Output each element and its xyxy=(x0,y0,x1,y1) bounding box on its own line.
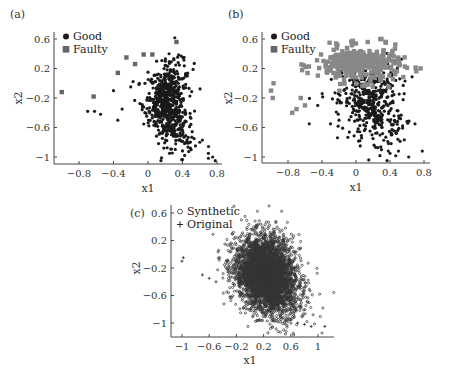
legend-item-faulty: Faulty xyxy=(63,43,109,56)
panel-a: −0.8−0.400.40.80.60.2−0.2−0.6−1(a)x1x2Go… xyxy=(10,8,225,195)
y-tick-label: −0.2 xyxy=(143,263,167,274)
x-tick-label: 0.8 xyxy=(209,168,225,179)
x-tick-label: −0.4 xyxy=(310,167,334,178)
open-circle-marker-icon xyxy=(178,209,183,214)
y-tick-label: −0.2 xyxy=(234,93,258,104)
x-tick-label: −0.8 xyxy=(276,167,300,178)
panel-label: (c) xyxy=(130,207,145,220)
circle-marker-icon xyxy=(271,34,277,40)
y-tick-label: −0.6 xyxy=(143,290,167,301)
x-axis-label: x1 xyxy=(141,182,154,195)
x-axis-label: x1 xyxy=(243,354,256,367)
legend-item-faulty: Faulty xyxy=(271,43,317,56)
y-tick-label: −1 xyxy=(243,152,258,163)
legend-item-synthetic: Synthetic xyxy=(178,205,240,218)
legend: GoodFaulty xyxy=(63,30,109,56)
legend-label: Good xyxy=(281,30,310,43)
panel-b: −0.8−0.400.40.80.60.2−0.2−0.6−1(b)x1x2Go… xyxy=(222,8,432,194)
legend-label: Good xyxy=(73,30,102,43)
y-tick-label: 0.6 xyxy=(242,34,258,45)
x-tick-label: −0.2 xyxy=(224,341,248,352)
x-tick-label: 0.8 xyxy=(416,167,432,178)
x-tick-label: −0.6 xyxy=(197,341,221,352)
y-tick-label: −1 xyxy=(152,318,167,329)
legend-item-original: Original xyxy=(177,218,233,231)
legend: GoodFaulty xyxy=(271,30,317,56)
y-tick-label: −1 xyxy=(35,152,50,163)
square-marker-icon xyxy=(63,46,70,53)
legend-label: Synthetic xyxy=(187,205,240,218)
legend-label: Faulty xyxy=(281,43,316,56)
x-tick-label: 0.6 xyxy=(283,341,299,352)
x-tick-label: 0 xyxy=(353,167,359,178)
figure: −0.8−0.400.40.80.60.2−0.2−0.6−1(a)x1x2Go… xyxy=(0,0,449,378)
y-tick-label: −0.2 xyxy=(26,93,50,104)
y-axis-label: x2 xyxy=(12,91,25,104)
y-tick-label: 0.6 xyxy=(34,34,50,45)
square-marker-icon xyxy=(271,46,278,53)
legend-label: Original xyxy=(187,218,233,231)
y-tick-label: 0.6 xyxy=(151,208,167,219)
y-tick-label: 0.2 xyxy=(151,235,167,246)
x-tick-label: −1 xyxy=(175,341,190,352)
y-tick-label: −0.6 xyxy=(234,122,258,133)
y-tick-label: −0.6 xyxy=(26,122,50,133)
panel-label: (a) xyxy=(10,8,25,21)
y-tick-label: 0.2 xyxy=(242,63,258,74)
x-tick-label: −0.8 xyxy=(67,168,91,179)
panel-label: (b) xyxy=(228,8,244,21)
legend-label: Faulty xyxy=(73,43,108,56)
x-tick-label: 0.4 xyxy=(382,167,398,178)
x-tick-label: 0 xyxy=(145,168,151,179)
x-axis-label: x1 xyxy=(349,181,362,194)
x-tick-label: 1 xyxy=(315,341,321,352)
panel-c: −1−0.6−0.20.20.610.60.2−0.2−0.6−1(c)x1x2… xyxy=(130,205,335,367)
y-tick-label: 0.2 xyxy=(34,63,50,74)
legend: SyntheticOriginal xyxy=(177,205,240,231)
circle-marker-icon xyxy=(63,34,69,40)
y-axis-label: x2 xyxy=(222,91,235,104)
y-axis-label: x2 xyxy=(130,261,143,274)
x-tick-label: 0.4 xyxy=(175,168,191,179)
legend-item-good: Good xyxy=(63,30,102,43)
legend-item-good: Good xyxy=(271,30,310,43)
x-tick-label: −0.4 xyxy=(101,168,125,179)
x-tick-label: 0.2 xyxy=(256,341,272,352)
